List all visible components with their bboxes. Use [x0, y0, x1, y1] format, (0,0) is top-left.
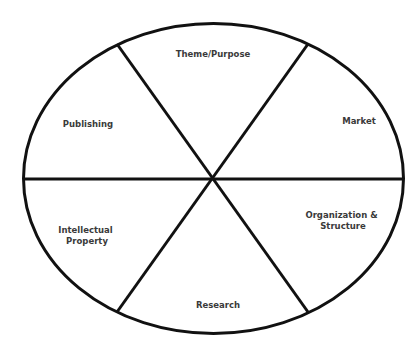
segment-label-line: Research: [196, 300, 240, 310]
segment-label-research: Research: [196, 300, 240, 310]
segment-label-line: Intellectual: [58, 225, 113, 235]
segment-label-line: Property: [66, 236, 108, 246]
segment-label-line: Publishing: [63, 119, 113, 129]
segment-label-market: Market: [342, 116, 376, 126]
segment-label-line: Organization &: [305, 210, 378, 220]
segment-label-organization-structure: Organization & Structure: [305, 210, 380, 231]
segment-label-publishing: Publishing: [63, 119, 113, 129]
segment-label-line: Market: [342, 116, 376, 126]
segment-label-intellectual-property: Intellectual Property: [58, 225, 115, 246]
segmented-ellipse-diagram: Theme/Purpose Market Organization & Stru…: [0, 0, 420, 354]
segment-label-theme-purpose: Theme/Purpose: [176, 49, 251, 59]
segment-label-line: Structure: [320, 221, 366, 231]
segment-label-line: Theme/Purpose: [176, 49, 251, 59]
